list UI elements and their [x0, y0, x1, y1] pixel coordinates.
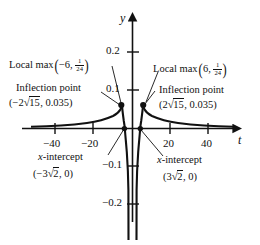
x-tick-label--40: −40	[43, 138, 60, 149]
y-tick-label-0.2: 0.2	[106, 45, 120, 56]
radical-icon: √15	[168, 98, 185, 111]
annotation-x-intercept-left-line1: x-intercept	[38, 152, 83, 163]
annotation-inflection-right-line2: (2√15, 0.035)	[159, 98, 217, 111]
annotation-inflection-left-line2: (−2√15, 0.035)	[9, 96, 73, 109]
fraction-1-over-24: 124	[75, 58, 84, 72]
math-graph-figure: y t −40 −20 20 40 0.2 0.1 −0.1 −0.2 Loca…	[0, 0, 260, 245]
local-max-left-point	[118, 102, 124, 108]
radicand: 15	[173, 98, 185, 110]
inflection-right-coord-suffix: , 0.035)	[184, 99, 216, 110]
paren-open-icon: (	[198, 64, 202, 77]
graph-canvas	[0, 0, 260, 245]
x-intercept-right-point	[138, 126, 143, 131]
x-intercept-left-point	[122, 126, 127, 131]
fraction-numerator: 1	[213, 62, 222, 69]
y-tick-label-0.1: 0.1	[106, 83, 120, 94]
local-max-right-point	[140, 102, 146, 108]
curve-right-descending	[137, 106, 144, 240]
x-tick-label-40: 40	[201, 138, 212, 149]
y-tick-label--0.2: −0.2	[102, 197, 122, 208]
paren-close-icon: )	[223, 64, 227, 77]
fraction-1-over-24: 124	[213, 62, 222, 76]
y-axis-label: y	[120, 12, 125, 24]
fraction-denominator: 24	[213, 69, 222, 77]
radical-icon: √2	[172, 170, 183, 183]
x-intercept-left-coord-suffix: , 0)	[59, 168, 73, 179]
x-intercept-right-coord-suffix: , 0)	[183, 171, 197, 182]
annotation-x-intercept-right-line2: (3√2, 0)	[163, 170, 197, 183]
annotation-inflection-right-line1: Inflection point	[159, 85, 224, 96]
local-max-left-x: −6	[59, 59, 70, 70]
local-max-left-text: Local max	[9, 59, 54, 70]
x-intercept-left-text: -intercept	[43, 151, 83, 162]
x-intercept-right-coord-prefix: (3	[163, 171, 172, 182]
annotation-x-intercept-left-line2: (−3√2, 0)	[33, 167, 73, 180]
fraction-denominator: 24	[75, 65, 84, 73]
curve-left-upper	[31, 106, 122, 127]
x-axis-label: t	[238, 134, 241, 146]
radical-icon: √15	[24, 96, 41, 109]
annotation-local-max-right: Local max(6, 124)	[153, 62, 227, 77]
paren-open-icon: (	[54, 60, 58, 73]
radicand: 15	[29, 96, 41, 108]
inflection-left-coord-suffix: , 0.035)	[40, 97, 72, 108]
inflection-right-coord-prefix: (2	[159, 99, 168, 110]
annotation-local-max-left: Local max(−6, 124)	[9, 58, 89, 73]
inflection-left-coord-prefix: (−2	[9, 97, 24, 108]
curve-left-descending	[122, 106, 129, 240]
paren-close-icon: )	[85, 60, 89, 73]
x-intercept-left-coord-prefix: (−3	[33, 168, 48, 179]
inflection-left-text: Inflection point	[16, 82, 81, 93]
y-tick-label--0.1: −0.1	[102, 159, 122, 170]
annotation-x-intercept-right-line1: x-intercept	[157, 155, 202, 166]
inflection-right-text: Inflection point	[159, 84, 224, 95]
local-max-right-text: Local max	[153, 63, 198, 74]
annotation-inflection-left-line1: Inflection point	[16, 83, 81, 94]
x-intercept-right-text: -intercept	[162, 154, 202, 165]
radical-icon: √2	[48, 167, 59, 180]
x-tick-label-20: 20	[163, 138, 174, 149]
x-tick-label--20: −20	[81, 138, 98, 149]
fraction-numerator: 1	[75, 58, 84, 65]
